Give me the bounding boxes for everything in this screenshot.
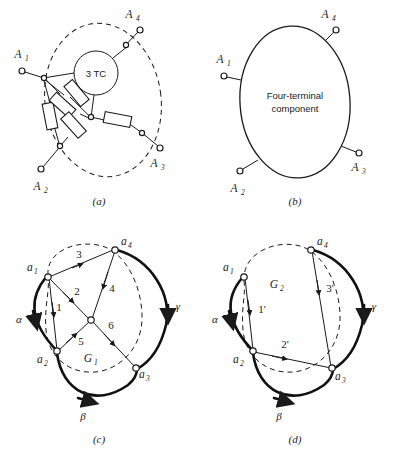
graph-edge-3-prime-arrow (317, 280, 319, 294)
graph-edge-label-5: 5 (78, 335, 84, 347)
graph-edge-label-2: 2 (74, 285, 80, 297)
graph-vertex-label-a1-d: a (223, 261, 229, 273)
graph-edge-6-arrow (104, 334, 114, 345)
graph-vertex-label-a2-d: a (233, 353, 239, 365)
graph-vertex-sub-a2-c: 2 (44, 359, 48, 368)
terminal-label-a2: A (32, 180, 41, 192)
component-label-line1: Four-terminal (267, 90, 324, 101)
graph-vertex-label-a3-d: a (335, 370, 341, 382)
graph-vertex-a2-c (54, 348, 60, 354)
res-wire-c-bot (62, 137, 68, 144)
panel-b: Four-terminal component A 1 A 2 A 3 A 4 … (215, 8, 366, 208)
boundary-edge-gamma-c (117, 250, 167, 369)
graph-vertex-sub-a3-c: 3 (145, 374, 150, 383)
boundary-label-beta-c: β (79, 410, 86, 422)
boundary-label-beta-d: β (275, 410, 282, 422)
boundary-edge-gamma-d (313, 250, 363, 369)
graph-vertex-label-a3-c: a (139, 368, 145, 380)
component-lead-a3 (341, 146, 356, 152)
panel-a-caption: (a) (93, 195, 106, 208)
graph-edge-label-2-prime: 2' (281, 338, 289, 350)
terminal-lead-a2 (43, 149, 59, 168)
graph-vertex-sub-a2-d: 2 (240, 359, 244, 368)
junction-node-center (88, 114, 93, 119)
component-terminal-label-a3: A (350, 161, 359, 173)
figure-svg: 3 TC (0, 0, 397, 455)
terminal-sub-a4: 4 (136, 14, 140, 23)
terminal-label-a4: A (124, 8, 133, 20)
component-terminal-a2 (237, 168, 243, 174)
panel-c-caption: (c) (93, 433, 106, 446)
tc-lead-to-center-node (91, 95, 94, 115)
component-terminal-sub-a4: 4 (332, 14, 336, 23)
boundary-label-gamma-c: γ (176, 300, 181, 312)
graph-edge-3-arrow (72, 264, 82, 268)
terminal-sub-a3: 3 (160, 163, 165, 172)
terminal-circle-a3 (157, 145, 163, 151)
component-terminal-sub-a3: 3 (361, 167, 366, 176)
boundary-edge-alpha-d (230, 277, 254, 352)
graph-edge-label-1: 1 (56, 301, 62, 313)
graph-edge-label-3: 3 (76, 248, 82, 260)
graph-vertex-label-a2-c: a (37, 353, 43, 365)
graph-vertex-sub-a1-c: 1 (34, 267, 38, 276)
graph-vertex-label-a4-d: a (317, 235, 323, 247)
graph-edge-label-4: 4 (109, 282, 115, 294)
graph-edge-1-prime (245, 278, 253, 350)
component-terminal-a1 (221, 73, 227, 79)
graph-edge-2-prime (254, 352, 331, 368)
graph-vertex-label-a4-c: a (121, 235, 127, 247)
panel-d: a 1 a 2 a 3 a 4 1' 2' 3' α β γ G 2 (d) (212, 235, 377, 446)
component-terminal-a3 (356, 150, 362, 156)
component-terminal-sub-a2: 2 (241, 188, 245, 197)
terminal-lead-a1 (25, 72, 42, 77)
graph-sub-g1: 1 (94, 358, 98, 367)
graph-edge-2-prime-arrow (272, 356, 286, 359)
component-terminal-sub-a1: 1 (227, 59, 231, 68)
graph-vertex-sub-a3-d: 3 (341, 376, 346, 385)
graph-edge-2-arrow (63, 292, 73, 302)
panel-a: 3 TC (13, 8, 171, 208)
graph-vertex-a4-c (112, 247, 118, 253)
panel-d-caption: (d) (289, 433, 302, 446)
component-terminal-label-a4: A (320, 8, 329, 20)
graph-vertex-sub-a4-c: 4 (128, 241, 132, 250)
resistor-element-3 (61, 112, 87, 139)
res-wire-d-left (94, 118, 104, 120)
component-lead-a2 (243, 160, 258, 169)
component-lead-a1 (227, 77, 241, 80)
terminal-label-a3: A (149, 157, 158, 169)
terminal-sub-a1: 1 (25, 54, 29, 63)
graph-edge-3-prime (312, 251, 331, 367)
component-label-line2: component (271, 103, 318, 114)
three-terminal-component-label: 3 TC (86, 68, 107, 79)
graph-label-g2: G (270, 278, 279, 290)
terminal-sub-a2: 2 (44, 186, 48, 195)
graph-vertex-sub-a4-d: 4 (324, 241, 328, 250)
component-terminal-label-a2: A (229, 182, 238, 194)
terminal-circle-a4 (137, 27, 143, 33)
res-wire-d-right (131, 125, 140, 132)
graph-vertex-a2-d (250, 348, 256, 354)
terminal-lead-a4 (128, 32, 139, 43)
figure-container: 3 TC (0, 0, 397, 455)
component-terminal-a4 (333, 27, 339, 33)
res-wire-e-low (46, 80, 65, 95)
panel-c: a 1 a 2 a 3 a 4 3 1 2 4 5 6 α β γ G 1 (c… (16, 235, 181, 446)
terminal-circle-a2 (38, 166, 44, 172)
boundary-label-gamma-d: γ (372, 300, 377, 312)
graph-sub-g2: 2 (280, 284, 284, 293)
resistor-element-4 (103, 112, 132, 128)
four-terminal-component-outline (235, 22, 355, 181)
boundary-label-alpha-d: α (212, 313, 218, 325)
terminal-label-a1: A (13, 48, 22, 60)
graph-edge-label-6: 6 (108, 319, 114, 331)
boundary-arrow-beta-c (78, 398, 92, 402)
graph-vertex-label-a1-c: a (27, 261, 33, 273)
graph-vertex-a4-d (308, 247, 314, 253)
graph-vertex-sub-a1-d: 1 (230, 267, 234, 276)
component-terminal-label-a1: A (215, 53, 224, 65)
graph-edge-label-3-prime: 3' (326, 282, 334, 294)
tc-lead-to-upper-right-node (113, 47, 127, 58)
graph-label-g1: G (84, 352, 93, 364)
